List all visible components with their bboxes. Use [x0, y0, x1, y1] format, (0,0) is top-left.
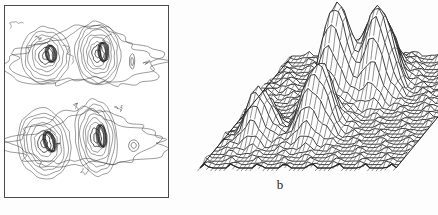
panel-b-caption: b: [268, 178, 292, 192]
panel-b-surface-plot: b: [190, 0, 438, 215]
contour-plot-frame: [4, 5, 169, 198]
figure-container: b: [0, 0, 438, 215]
panel-a-contour-map: [0, 0, 190, 215]
contour-plot-svg: [5, 6, 168, 197]
surface-plot-svg: [190, 0, 438, 190]
